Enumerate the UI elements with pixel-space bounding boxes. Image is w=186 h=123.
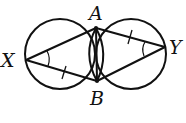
label-b: B xyxy=(89,87,104,109)
geometry-diagram: A B X Y xyxy=(0,0,186,123)
segment-ab xyxy=(96,28,97,81)
left-circle xyxy=(25,19,95,89)
angle-mark-y xyxy=(143,42,145,56)
segment-xa xyxy=(26,28,96,60)
segment-by xyxy=(97,47,165,81)
right-circle xyxy=(96,19,166,89)
segment-xb xyxy=(26,60,97,81)
angle-mark-x xyxy=(47,51,49,66)
point-b xyxy=(95,79,99,83)
label-x: X xyxy=(0,49,16,71)
point-a xyxy=(94,26,98,30)
label-a: A xyxy=(87,2,103,24)
label-y: Y xyxy=(169,36,184,58)
